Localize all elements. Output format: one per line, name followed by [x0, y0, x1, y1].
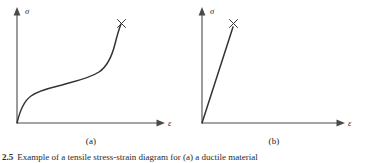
x-axis-arrowhead	[337, 120, 346, 127]
figure-caption: 2.5Example of a tensile stress-strain di…	[2, 152, 365, 163]
ductile-curve	[17, 24, 121, 123]
figure-caption-text: Example of a tensile stress-strain diagr…	[17, 152, 257, 162]
chart-panel-brittle: σ ε	[183, 0, 365, 135]
brittle-stress-strain-plot: σ ε	[183, 0, 365, 135]
subfigure-caption-a: (a)	[0, 136, 182, 146]
y-axis-arrowhead	[199, 7, 206, 16]
x-axis-label: ε	[168, 118, 172, 128]
y-axis-label: σ	[25, 6, 30, 16]
chart-panel-ductile: σ ε	[0, 0, 182, 135]
figure-caption-number: 2.5	[2, 152, 13, 162]
y-axis-label: σ	[210, 6, 215, 16]
fracture-point-marker-icon	[230, 20, 238, 28]
ductile-stress-strain-plot: σ ε	[0, 0, 182, 135]
brittle-curve	[202, 27, 233, 123]
x-axis-label: ε	[348, 118, 352, 128]
stress-strain-figure: σ ε σ ε (a) (b) 2.5Example of a tensile …	[0, 0, 365, 163]
subfigure-caption-b: (b)	[183, 136, 365, 146]
fracture-point-marker-icon	[118, 20, 126, 28]
x-axis-arrowhead	[157, 120, 166, 127]
y-axis-arrowhead	[14, 7, 21, 16]
